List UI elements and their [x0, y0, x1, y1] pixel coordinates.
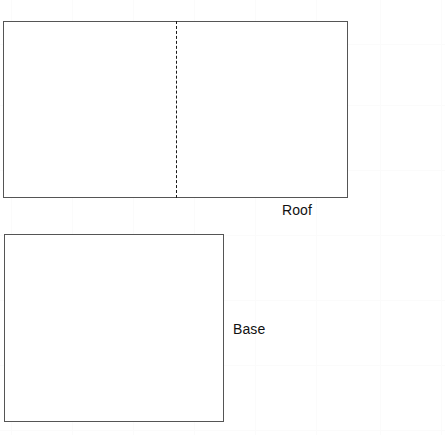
- grid-line-vertical: [380, 0, 381, 435]
- grid-line-vertical: [441, 0, 442, 435]
- roof-label: Roof: [282, 202, 312, 218]
- diagram-canvas: Roof Base: [0, 0, 445, 435]
- base-rectangle[interactable]: [4, 234, 224, 422]
- base-label: Base: [233, 321, 265, 337]
- grid-line-horizontal: [0, 430, 445, 431]
- roof-fold-dashed-line: [176, 21, 177, 198]
